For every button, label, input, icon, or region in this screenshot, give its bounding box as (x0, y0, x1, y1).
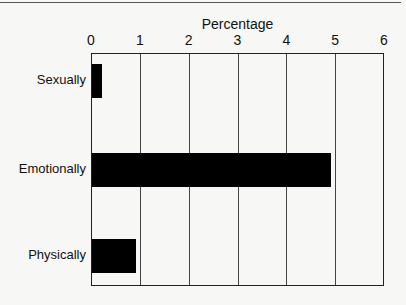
gridline (335, 54, 336, 285)
category-label: Physically (0, 247, 86, 262)
x-tick-label: 6 (374, 32, 394, 48)
x-tick-label: 0 (81, 32, 101, 48)
x-tick-label: 5 (325, 32, 345, 48)
bar-sexually (92, 64, 102, 98)
x-tick-label: 1 (130, 32, 150, 48)
bar-physically (92, 239, 136, 273)
x-tick-label: 4 (276, 32, 296, 48)
bar-emotionally (92, 153, 331, 187)
top-border-line (0, 2, 401, 3)
category-label: Sexually (0, 72, 86, 87)
x-tick-label: 2 (179, 32, 199, 48)
x-axis-label: Percentage (91, 16, 384, 32)
x-tick-label: 3 (228, 32, 248, 48)
plot-area (91, 53, 384, 286)
category-label: Emotionally (0, 161, 86, 176)
